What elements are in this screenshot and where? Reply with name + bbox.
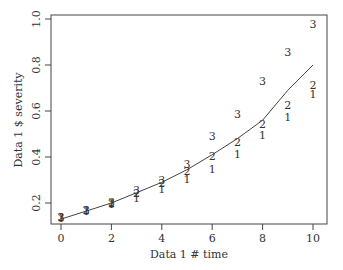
data-point-series-2: 2 — [259, 118, 266, 131]
data-point-series-3: 3 — [133, 184, 140, 197]
x-tick-label: 2 — [108, 232, 115, 245]
x-tick-label: 4 — [158, 232, 165, 245]
data-point-series-2: 2 — [209, 150, 216, 163]
data-point-series-1: 1 — [259, 129, 266, 142]
y-axis-title: Data 1 $ severity — [12, 72, 25, 168]
data-point-series-3: 3 — [209, 130, 216, 143]
data-point-series-3: 3 — [108, 196, 115, 209]
data-point-series-2: 2 — [310, 79, 317, 92]
y-tick-label: 0.2 — [30, 194, 43, 212]
fitted-curve — [61, 65, 313, 219]
y-tick-label: 1.0 — [30, 10, 43, 28]
y-tick-label: 0.6 — [30, 102, 43, 120]
data-point-series-3: 3 — [310, 18, 317, 31]
data-point-series-3: 3 — [83, 204, 90, 217]
x-axis: 0246810 — [58, 224, 321, 245]
data-point-series-3: 3 — [184, 158, 191, 171]
data-point-series-1: 1 — [234, 148, 241, 161]
data-point-series-3: 3 — [158, 174, 165, 187]
x-tick-label: 0 — [58, 232, 65, 245]
data-point-series-1: 1 — [284, 111, 291, 124]
data-point-series-3: 3 — [259, 75, 266, 88]
data-point-series-2: 2 — [284, 99, 291, 112]
data-point-series-3: 3 — [234, 108, 241, 121]
y-axis: 0.20.40.60.81.0 — [30, 10, 51, 212]
y-tick-label: 0.8 — [30, 56, 43, 74]
y-tick-label: 0.4 — [30, 148, 43, 166]
x-axis-title: Data 1 # time — [150, 248, 228, 261]
data-point-series-3: 3 — [284, 46, 291, 59]
x-tick-label: 10 — [306, 232, 320, 245]
x-tick-label: 6 — [209, 232, 216, 245]
scatter-chart: 0246810 0.20.40.60.81.0 1111111111122222… — [0, 0, 343, 270]
data-point-series-3: 3 — [58, 211, 65, 224]
x-tick-label: 8 — [259, 232, 266, 245]
data-point-series-2: 2 — [234, 136, 241, 149]
data-point-series-1: 1 — [209, 163, 216, 176]
data-points: 111111111112222222222233333333333 — [58, 18, 317, 225]
